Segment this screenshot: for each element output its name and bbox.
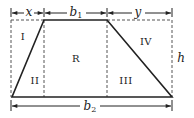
- dimension-b1: b1: [45, 5, 106, 20]
- dimension-y: y: [108, 5, 171, 19]
- region-label-R: R: [72, 53, 80, 64]
- label-h: h: [177, 51, 185, 65]
- region-label-II: II: [31, 75, 40, 86]
- label-b1: b1: [70, 5, 83, 20]
- label-b2: b2: [84, 99, 97, 114]
- region-label-IV: IV: [140, 36, 152, 47]
- dimension-b2: b2: [11, 99, 172, 114]
- label-x: x: [26, 5, 33, 19]
- region-label-III: III: [119, 75, 132, 86]
- dimension-x: x: [12, 5, 43, 19]
- trapezoid-diagram: x b1 y b2 h I II R III IV: [0, 0, 194, 118]
- region-label-I: I: [21, 31, 25, 42]
- label-y: y: [134, 5, 142, 19]
